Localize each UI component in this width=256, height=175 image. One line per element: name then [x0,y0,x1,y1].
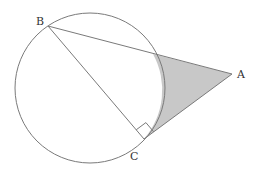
label-a: A [236,68,246,81]
shaded-region [144,54,232,139]
label-c: C [130,150,138,163]
circle [15,13,165,163]
label-b: B [36,15,44,28]
segment-bc [48,26,144,139]
geometry-diagram: B A C [0,0,256,175]
segment-ba [48,26,232,74]
